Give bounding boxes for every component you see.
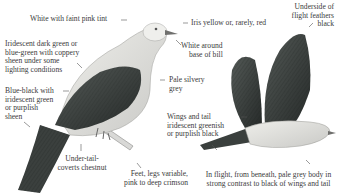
- label-line: pink to deep crimson: [110, 179, 188, 188]
- label-wings-tail: Wings and tail iridescent greenish or pu…: [167, 113, 224, 139]
- label-line: lighting conditions: [5, 66, 79, 75]
- bill: [165, 30, 178, 35]
- label-bill-base: White around base of bill: [181, 42, 223, 59]
- label-line: grey: [169, 85, 205, 94]
- label-feet-legs: Feet, legs variable, pink to deep crimso…: [110, 170, 188, 187]
- label-iris: Iris yellow or, rarely, red: [191, 19, 266, 28]
- label-line: black: [280, 20, 334, 29]
- label-line: sheen: [5, 113, 54, 122]
- label-in-flight: In flight, from beneath, pale grey body …: [200, 171, 337, 188]
- label-line: strong contrast to black of wings and ta…: [200, 180, 337, 189]
- label-line: coverts chestnut: [54, 164, 110, 173]
- label-underwing: Underside of flight feathers black: [280, 3, 334, 29]
- label-head-colour: White with faint pink tint: [30, 15, 107, 24]
- label-undertail-coverts: Under-tail- coverts chestnut: [54, 155, 110, 172]
- label-neck-iridescence: Iridescent dark green or blue-green with…: [5, 40, 79, 74]
- label-body-colour: Pale silvery grey: [169, 76, 205, 93]
- label-wing-colour: Blue-black with iridescent green or purp…: [5, 87, 54, 121]
- label-line: base of bill: [181, 51, 223, 60]
- label-line: or purplish black: [167, 130, 224, 139]
- eye: [155, 28, 158, 31]
